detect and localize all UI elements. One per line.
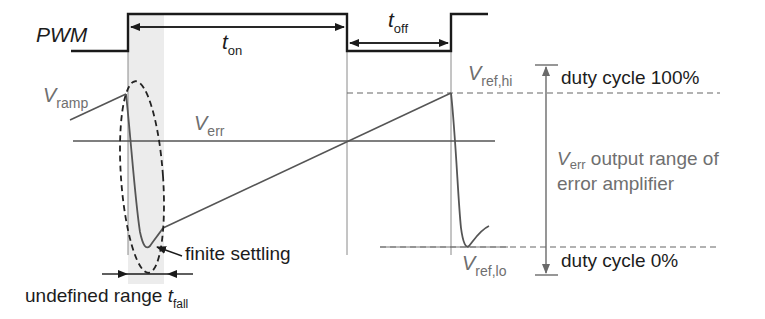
undefined-range-label: undefined range tfall: [25, 286, 188, 305]
t-on-label: ton: [222, 31, 242, 52]
v-ref-lo-main: V: [462, 252, 475, 274]
v-ref-hi-label: Vref,hi: [468, 63, 512, 83]
undefined-range-text: undefined range: [25, 285, 168, 306]
v-ramp-label: Vramp: [43, 85, 88, 105]
range-description-line2: error amplifier: [557, 174, 674, 193]
v-ref-lo-label: Vref,lo: [462, 253, 506, 273]
v-ref-hi-sub: ref,hi: [481, 73, 512, 89]
t-off-label: toff: [388, 9, 408, 30]
t-off-sub: off: [394, 21, 408, 36]
t-fall-sub: fall: [173, 297, 188, 311]
v-err-sub: err: [207, 123, 224, 139]
v-err-label: Verr: [194, 113, 224, 133]
v-ref-hi-main: V: [468, 62, 481, 84]
v-ramp-sub: ramp: [56, 95, 88, 111]
pwm-timing-diagram: PWM ton toff Vramp Verr Vref,hi Vref,lo …: [0, 0, 765, 319]
pwm-label: PWM: [36, 24, 87, 45]
t-off-main: t: [388, 8, 394, 31]
undefined-range-shade: [128, 14, 164, 284]
v-ramp-second-fall: [451, 93, 489, 247]
range-v-sub: err: [570, 157, 586, 172]
v-err-main: V: [194, 112, 207, 134]
t-on-main: t: [222, 30, 228, 53]
range-description-line1: Verr output range of: [557, 149, 719, 168]
t-on-sub: on: [228, 43, 242, 58]
range-v-main: V: [557, 148, 570, 169]
v-ramp-main: V: [43, 84, 56, 106]
range-line1-rest: output range of: [586, 148, 719, 169]
v-ref-lo-sub: ref,lo: [475, 263, 506, 279]
duty-cycle-100-label: duty cycle 100%: [561, 68, 699, 87]
finite-settling-label: finite settling: [185, 244, 291, 263]
duty-cycle-0-label: duty cycle 0%: [561, 251, 678, 270]
